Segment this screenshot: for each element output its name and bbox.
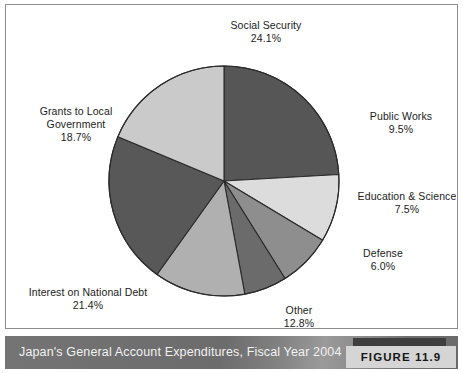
slice-label-name: Education & Science xyxy=(345,190,463,203)
slice-label-value: 7.5% xyxy=(345,203,463,216)
slice-label-interest-on-national-debt: Interest on National Debt 21.4% xyxy=(14,286,162,312)
slice-label-grants-to-local-government: Grants to Local Government 18.7% xyxy=(15,105,137,144)
slice-label-social-security: Social Security 24.1% xyxy=(206,19,326,45)
figure-tag-box: FIGURE 11.9 xyxy=(346,346,456,368)
slice-label-value: 12.8% xyxy=(264,317,334,330)
slice-label-name: Social Security xyxy=(206,19,326,32)
slice-label-other: Other 12.8% xyxy=(264,304,334,330)
figure-container: Social Security 24.1% Public Works 9.5% … xyxy=(0,0,463,373)
figure-tag-label: FIGURE 11.9 xyxy=(361,351,442,363)
chart-plot-frame: Social Security 24.1% Public Works 9.5% … xyxy=(5,4,458,329)
slice-label-public-works: Public Works 9.5% xyxy=(346,110,456,136)
pie-chart xyxy=(6,5,463,334)
slice-label-name: Defense xyxy=(337,247,429,260)
slice-label-value: 18.7% xyxy=(15,131,137,144)
pie-slice-group xyxy=(109,66,339,296)
figure-caption-bar: Japan's General Account Expenditures, Fi… xyxy=(5,336,458,369)
pie-slice xyxy=(224,66,339,181)
slice-label-name: Grants to Local Government xyxy=(15,105,137,131)
slice-label-defense: Defense 6.0% xyxy=(337,247,429,273)
figure-tag-accent-bar xyxy=(353,338,446,346)
slice-label-value: 24.1% xyxy=(206,32,326,45)
slice-label-name: Interest on National Debt xyxy=(14,286,162,299)
slice-label-name: Other xyxy=(264,304,334,317)
slice-label-name: Public Works xyxy=(346,110,456,123)
slice-label-value: 9.5% xyxy=(346,123,456,136)
slice-label-value: 6.0% xyxy=(337,260,429,273)
figure-caption-text: Japan's General Account Expenditures, Fi… xyxy=(19,345,342,359)
slice-label-value: 21.4% xyxy=(14,299,162,312)
slice-label-education-and-science: Education & Science 7.5% xyxy=(345,190,463,216)
